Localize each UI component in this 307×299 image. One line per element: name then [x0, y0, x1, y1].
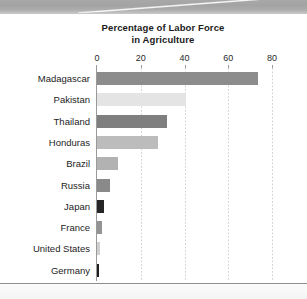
category-label-united-states: United States — [0, 238, 90, 259]
x-tick-label-40: 40 — [170, 53, 200, 63]
bar-united-states — [97, 242, 100, 255]
bar-row: Honduras — [0, 132, 307, 153]
x-tick-label-20: 20 — [126, 53, 156, 63]
category-label-pakistan: Pakistan — [0, 89, 90, 110]
bar-honduras — [97, 136, 158, 149]
bar-row: Germany — [0, 260, 307, 281]
bar-thailand — [97, 115, 167, 128]
category-label-russia: Russia — [0, 175, 90, 196]
x-tick-label-80: 80 — [257, 53, 287, 63]
bar-germany — [97, 264, 99, 277]
bar-row: Brazil — [0, 153, 307, 174]
bar-row: Russia — [0, 175, 307, 196]
bar-row: France — [0, 217, 307, 238]
bar-brazil — [97, 157, 118, 170]
category-label-germany: Germany — [0, 260, 90, 281]
bar-row: United States — [0, 238, 307, 259]
category-label-brazil: Brazil — [0, 153, 90, 174]
bar-pakistan — [97, 93, 186, 106]
x-tick-label-60: 60 — [213, 53, 243, 63]
bar-madagascar — [97, 72, 258, 85]
bottom-margin — [0, 284, 307, 299]
bar-row: Pakistan — [0, 89, 307, 110]
category-label-thailand: Thailand — [0, 111, 90, 132]
plot-area: 020406080 MadagascarPakistanThailandHond… — [0, 0, 307, 283]
category-label-madagascar: Madagascar — [0, 68, 90, 89]
bar-russia — [97, 179, 110, 192]
x-tick-label-0: 0 — [82, 53, 112, 63]
bar-japan — [97, 200, 104, 213]
bar-row: Thailand — [0, 111, 307, 132]
category-label-france: France — [0, 217, 90, 238]
bar-france — [97, 221, 102, 234]
chart-page: Percentage of Labor Force in Agriculture… — [0, 0, 307, 299]
x-axis-tick-labels: 020406080 — [0, 53, 307, 65]
category-label-honduras: Honduras — [0, 132, 90, 153]
bar-row: Japan — [0, 196, 307, 217]
bar-row: Madagascar — [0, 68, 307, 89]
category-label-japan: Japan — [0, 196, 90, 217]
